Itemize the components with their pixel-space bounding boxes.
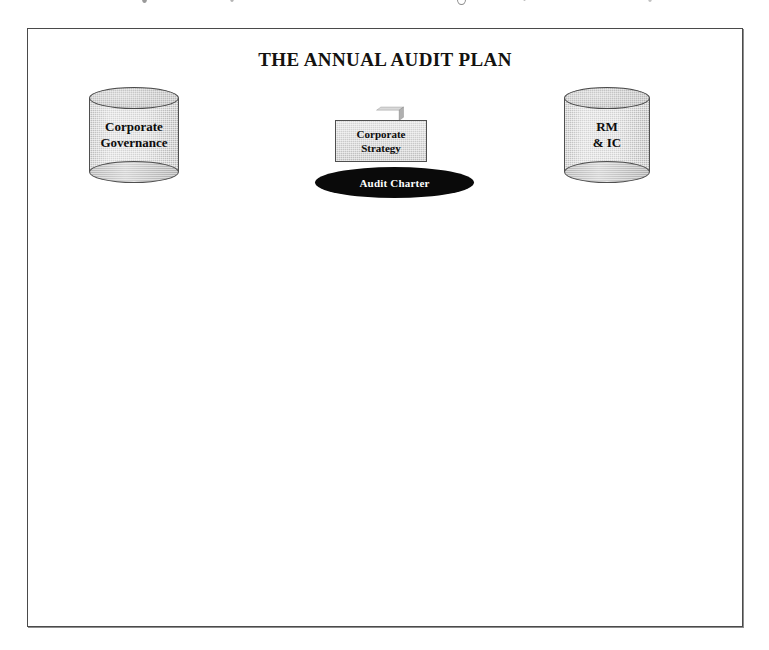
label-line: & IC: [564, 135, 650, 151]
node-label-corporate-strategy: Corporate Strategy: [335, 120, 427, 162]
label-line: Strategy: [361, 141, 401, 155]
scan-speck: [523, 0, 526, 1]
scan-speck: [142, 0, 147, 3]
scan-artifact-top-edge: [0, 0, 769, 10]
node-label-audit-charter: Audit Charter: [315, 167, 474, 198]
scan-speck: [230, 0, 234, 2]
label-line: Corporate: [89, 119, 179, 135]
node-rm-ic[interactable]: RM & IC: [564, 87, 650, 183]
scan-speck: [457, 0, 466, 5]
node-label-corporate-governance: Corporate Governance: [89, 119, 179, 152]
scan-speck: [648, 0, 652, 2]
label-line: Governance: [89, 135, 179, 151]
node-corporate-strategy[interactable]: Corporate Strategy: [335, 107, 445, 164]
box-top-face: [376, 107, 403, 110]
label-line: Corporate: [357, 127, 406, 141]
label-line: RM: [564, 119, 650, 135]
cylinder-bottom-ellipse: [564, 161, 650, 183]
node-corporate-governance[interactable]: Corporate Governance: [89, 87, 179, 183]
cylinder-top-ellipse: [564, 87, 650, 109]
diagram-title: THE ANNUAL AUDIT PLAN: [28, 49, 742, 71]
box-3d-faces: [335, 107, 445, 121]
node-audit-charter[interactable]: Audit Charter: [315, 167, 474, 198]
node-label-rm-ic: RM & IC: [564, 119, 650, 152]
cylinder-top-ellipse: [89, 87, 179, 109]
cylinder-bottom-ellipse: [89, 161, 179, 183]
diagram-frame: THE ANNUAL AUDIT PLAN Corporate Governan…: [27, 28, 743, 627]
